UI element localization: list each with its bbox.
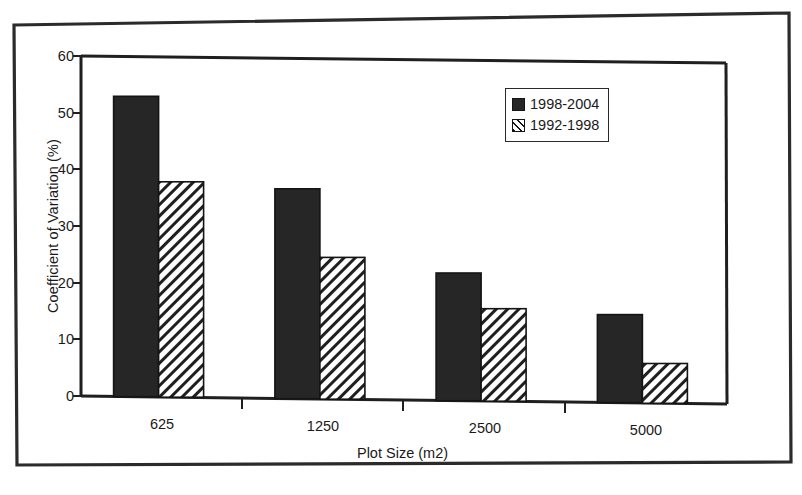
x-axis-title: Plot Size (m2) [80, 445, 725, 461]
legend-label-1998-2004: 1998-2004 [530, 97, 599, 112]
y-axis-title: Coefficient of Variation (%) [45, 61, 61, 391]
hatched-swatch-icon [512, 119, 525, 132]
chart-legend: 1998-2004 1992-1998 [505, 88, 609, 142]
x-axis-tick-labels: 625 1250 2500 5000 [0, 0, 802, 495]
legend-entry-1998-2004: 1998-2004 [512, 94, 599, 115]
x-tick-label-1250: 1250 [278, 419, 368, 434]
solid-swatch-icon [512, 98, 525, 111]
x-tick-label-625: 625 [117, 417, 207, 432]
bar-chart-figure: 0 10 20 30 40 50 60 625 1250 2500 5000 C… [0, 0, 802, 495]
x-tick-label-2500: 2500 [440, 421, 530, 436]
x-tick-label-5000: 5000 [601, 423, 691, 438]
legend-label-1992-1998: 1992-1998 [530, 118, 599, 133]
legend-entry-1992-1998: 1992-1998 [512, 115, 599, 136]
